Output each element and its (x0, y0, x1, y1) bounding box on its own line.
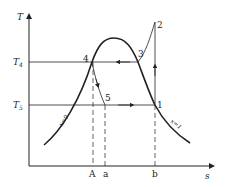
t-axis-label: T (17, 12, 24, 22)
mark-b-label: b (152, 169, 158, 179)
point-2-label: 2 (157, 20, 163, 30)
t-s-diagram: T s T4 T5 2 3 4 5 1 A a b x=0 x=1 (0, 0, 229, 187)
mark-A-label: A (88, 169, 96, 179)
saturation-dome (44, 38, 190, 145)
throttling-arrow-icon (96, 79, 98, 86)
point-3-label: 3 (138, 49, 144, 59)
point-5-label: 5 (105, 93, 111, 103)
t4-label: T4 (13, 57, 23, 68)
point-4-label: 4 (83, 54, 89, 64)
point-1-label: 1 (157, 100, 163, 110)
s-axis-label: s (205, 171, 210, 181)
mark-a-label: a (103, 169, 109, 179)
throttling-curve (92, 62, 105, 105)
t5-label: T5 (13, 100, 23, 111)
